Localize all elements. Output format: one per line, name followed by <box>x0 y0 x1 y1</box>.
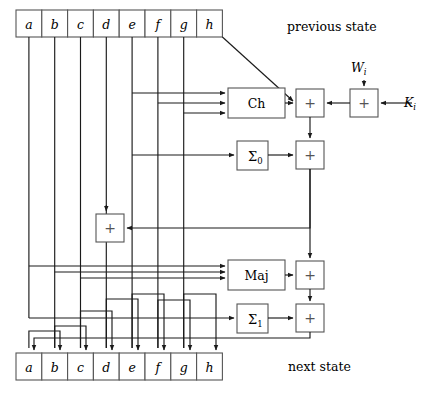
next-reg-label-d: d <box>102 360 110 375</box>
diagram-canvas: a b c d e f g h previous state Ch Σ0 + <box>0 0 431 398</box>
ki-input-label: Ki <box>403 95 416 112</box>
adder-ch-top-glyph: + <box>304 95 316 111</box>
adder-sigma1: + <box>296 304 324 332</box>
next-state-register-row: a b c d e f g h <box>16 353 222 380</box>
maj-function-block: Maj <box>228 260 285 290</box>
prev-reg-label-a: a <box>25 17 32 32</box>
prev-reg-label-d: d <box>102 17 110 32</box>
ch-box-label: Ch <box>248 96 266 111</box>
next-reg-label-h: h <box>205 360 213 375</box>
sha256-round-diagram: a b c d e f g h previous state Ch Σ0 + <box>0 0 431 398</box>
crossover-c-to-d <box>81 311 113 350</box>
adder-wi-ki-glyph: + <box>358 95 370 111</box>
next-reg-label-b: b <box>51 360 59 375</box>
adder-sigma0-glyph: + <box>304 147 316 163</box>
adder-ch-top: + <box>296 89 324 117</box>
crossover-d-to-e <box>106 299 138 350</box>
maj-box-label: Maj <box>244 268 268 283</box>
wi-input-label: Wi <box>351 60 367 77</box>
prev-reg-label-g: g <box>180 17 188 32</box>
ch-function-block: Ch <box>228 88 285 118</box>
next-reg-label-g: g <box>180 360 188 375</box>
adder-sigma1-glyph: + <box>304 310 316 326</box>
adder-d-feed: + <box>96 214 124 242</box>
adder-wi-ki: + <box>350 89 378 117</box>
adder-d-feed-glyph: + <box>104 220 116 236</box>
prev-reg-label-b: b <box>51 17 59 32</box>
wire-adder-sigma0-to-d-adder <box>127 169 310 228</box>
previous-state-caption: previous state <box>287 19 377 34</box>
next-reg-label-e: e <box>128 360 135 375</box>
prev-reg-label-h: h <box>205 17 213 32</box>
crossover-f-to-g <box>158 300 190 350</box>
sigma0-function-block: Σ0 <box>237 141 268 170</box>
prev-reg-label-c: c <box>77 17 84 32</box>
previous-state-register-row: a b c d e f g h <box>16 10 222 37</box>
adder-maj-glyph: + <box>304 267 316 283</box>
state-shift-crossover-wires <box>29 294 216 350</box>
crossover-e-to-f <box>132 294 164 350</box>
crossover-g-to-h <box>184 294 216 350</box>
next-reg-label-c: c <box>77 360 84 375</box>
prev-reg-label-e: e <box>128 17 135 32</box>
next-state-caption: next state <box>288 359 351 374</box>
next-reg-label-a: a <box>25 360 32 375</box>
sigma1-function-block: Σ1 <box>237 304 268 333</box>
wire-final-adder-to-next-a <box>34 332 310 350</box>
adder-maj: + <box>296 261 324 289</box>
adder-sigma0: + <box>296 141 324 169</box>
